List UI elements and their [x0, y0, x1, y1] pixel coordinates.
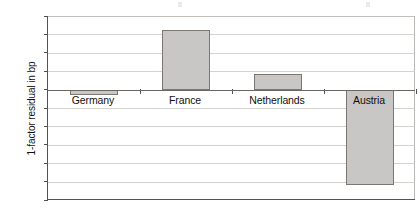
scan-artifact	[178, 2, 182, 7]
plot-area	[47, 16, 415, 200]
y-tick-mark	[44, 71, 48, 72]
y-tick-mark	[44, 144, 48, 145]
y-tick-mark	[44, 34, 48, 35]
bar-france	[162, 30, 210, 90]
y-axis-title: 1-factor residual in bp	[26, 29, 37, 189]
bar-chart: 1-factor residual in bp 20151050–5–10–15…	[0, 0, 419, 219]
gridline	[48, 53, 415, 54]
category-label-netherlands: Netherlands	[249, 94, 305, 106]
y-tick-mark	[44, 108, 48, 109]
gridline	[48, 16, 415, 17]
y-tick-mark	[44, 126, 48, 127]
bar-netherlands	[254, 74, 302, 89]
category-label-germany: Germany	[72, 94, 114, 106]
x-tick-mark	[416, 89, 417, 94]
category-label-austria: Austria	[353, 94, 385, 106]
y-tick-mark	[44, 163, 48, 164]
zero-baseline	[48, 90, 415, 91]
y-tick-mark	[44, 200, 48, 201]
y-tick-mark	[44, 16, 48, 17]
category-label-france: France	[169, 94, 201, 106]
y-tick-mark	[44, 52, 48, 53]
gridline	[48, 34, 415, 35]
gridline	[48, 71, 415, 72]
y-tick-mark	[44, 181, 48, 182]
scan-artifact	[366, 2, 370, 7]
